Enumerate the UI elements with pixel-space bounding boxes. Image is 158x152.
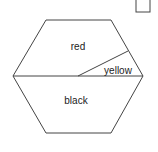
region-label-black: black	[64, 95, 88, 106]
corner-box	[136, 0, 150, 12]
hexagon-diagram: red yellow black	[0, 0, 158, 152]
region-label-yellow: yellow	[104, 65, 133, 76]
region-label-red: red	[71, 41, 85, 52]
